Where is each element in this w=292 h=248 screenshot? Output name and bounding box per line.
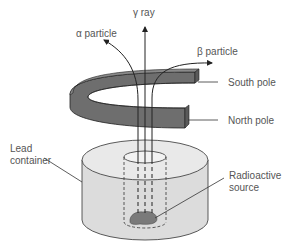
lead-container-label-line1: Lead (10, 143, 32, 154)
radioactive-source-label-line2: source (229, 182, 259, 193)
gamma-ray-label: γ ray (133, 7, 155, 18)
beta-particle-label: β particle (197, 46, 238, 57)
lead-container-label-line2: container (10, 155, 51, 166)
north-pole-label: North pole (228, 115, 274, 126)
alpha-particle-label: α particle (76, 28, 117, 39)
radioactive-source-label-line1: Radioactive (229, 170, 281, 181)
radioactive-source-blob (130, 211, 157, 224)
horseshoe-magnet (70, 69, 199, 128)
south-pole-label: South pole (228, 77, 276, 88)
radiation-deflection-diagram: γ ray α particle β particle South pole N… (0, 0, 292, 248)
